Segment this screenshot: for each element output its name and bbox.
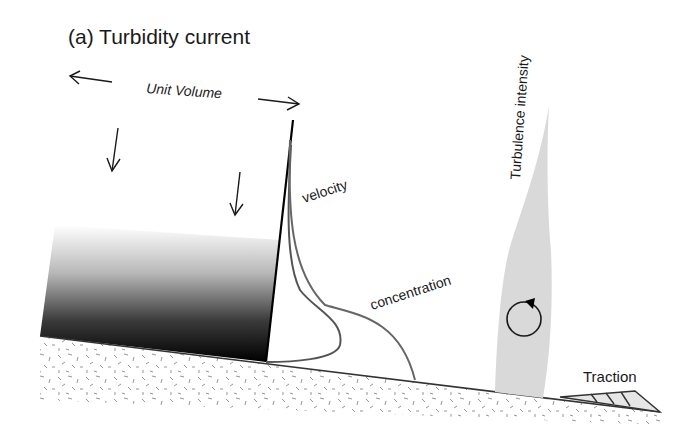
velocity-label: velocity bbox=[300, 176, 349, 206]
turbulence-intensity-label: Turbulence intensity bbox=[507, 55, 532, 181]
settling-arrow-2 bbox=[230, 172, 243, 215]
figure-title: (a) Turbidity current bbox=[68, 25, 250, 48]
settling-arrow-1 bbox=[107, 128, 120, 171]
traction-label: Traction bbox=[583, 368, 637, 385]
turbidity-current-diagram: (a) Turbidity current Unit Volume veloci… bbox=[0, 0, 690, 445]
sediment-bed bbox=[40, 336, 660, 425]
unit-volume-label: Unit Volume bbox=[146, 80, 223, 101]
unit-volume-arrow-left bbox=[70, 71, 112, 84]
unit-volume-arrow-right bbox=[258, 97, 299, 110]
concentration-profile bbox=[289, 140, 415, 380]
concentration-label: concentration bbox=[368, 272, 453, 313]
